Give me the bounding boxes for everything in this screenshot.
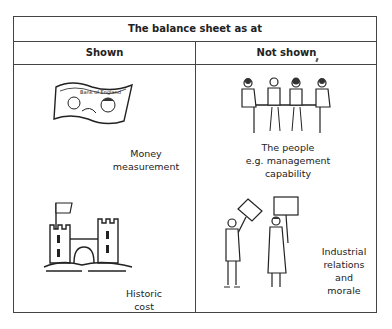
svg-text:Bank of England: Bank of England (80, 89, 121, 96)
column-header-shown: Shown (14, 41, 195, 64)
caption-line: capability (238, 167, 338, 180)
caption-line: Industrial (316, 245, 372, 258)
caption-line: The people (238, 141, 338, 154)
caption-line: Historic (114, 287, 174, 300)
caption-line: cost (114, 300, 174, 313)
caption-the-people: The people e.g. management capability (238, 141, 338, 180)
caption-line: measurement (106, 160, 186, 173)
caption-historic-cost: Historic cost (114, 287, 174, 313)
caption-line: Money (106, 147, 186, 160)
caption-money: Money measurement (106, 147, 186, 173)
table-title: The balance sheet as at (14, 17, 376, 42)
column-divider (195, 41, 196, 312)
castle-icon (42, 199, 138, 277)
banknote-icon: Bank of England (52, 77, 138, 127)
caption-line: relations (316, 258, 372, 271)
column-header-not-shown: Not shown (196, 41, 377, 64)
caption-industrial-relations: Industrial relations and morale (316, 245, 372, 297)
balance-sheet-table: The balance sheet as at Shown Not shown … (13, 16, 377, 313)
protesters-icon (208, 193, 308, 293)
caption-line: e.g. management (238, 154, 338, 167)
caption-line: and (316, 271, 372, 284)
caption-line: morale (316, 284, 372, 297)
meeting-people-icon (236, 77, 336, 135)
